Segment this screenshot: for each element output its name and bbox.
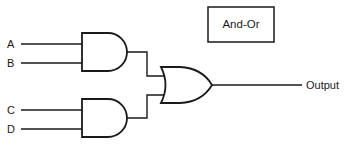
and-gate-1 (82, 33, 127, 71)
output-label: Output (306, 79, 339, 91)
and-or-circuit-diagram: And-Or A B C D Output (0, 0, 349, 146)
input-label-d: D (7, 123, 15, 135)
input-label-c: C (7, 104, 15, 116)
or-gate (161, 67, 212, 103)
title-label: And-Or (222, 18, 259, 30)
and-gate-2 (82, 99, 127, 137)
input-label-b: B (7, 57, 14, 69)
wire-and1-to-or (127, 52, 166, 76)
title-box: And-Or (208, 7, 274, 42)
wire-and2-to-or (127, 95, 166, 118)
input-label-a: A (7, 38, 15, 50)
